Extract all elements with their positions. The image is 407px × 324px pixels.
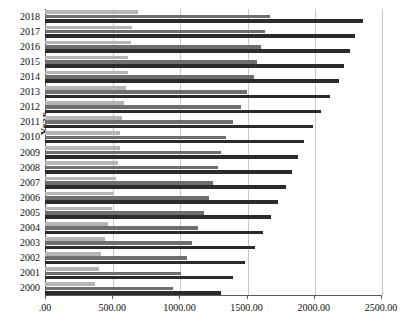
bar-group-2014	[45, 69, 381, 84]
bar-2008-series-1[interactable]	[45, 161, 118, 165]
bar-group-2006	[45, 190, 381, 205]
y-tick-2006: 2006	[20, 193, 40, 203]
bar-2012-series-1[interactable]	[45, 101, 124, 105]
bar-2013-series-3[interactable]	[45, 95, 330, 99]
bar-2009-series-2[interactable]	[45, 151, 221, 155]
bar-2015-series-3[interactable]	[45, 64, 344, 68]
bar-group-2016	[45, 39, 381, 54]
bar-2011-series-1[interactable]	[45, 116, 122, 120]
bar-2009-series-1[interactable]	[45, 146, 120, 150]
y-tick-2015: 2015	[20, 57, 40, 67]
bar-2005-series-3[interactable]	[45, 215, 271, 219]
bar-group-2007	[45, 175, 381, 190]
bar-2010-series-1[interactable]	[45, 131, 120, 135]
bar-2000-series-2[interactable]	[45, 287, 173, 291]
bars-layer	[45, 9, 381, 296]
bar-group-2011	[45, 115, 381, 130]
bar-2001-series-2[interactable]	[45, 272, 181, 276]
y-tick-2013: 2013	[20, 87, 40, 97]
bar-2012-series-3[interactable]	[45, 110, 321, 114]
bar-group-2001	[45, 266, 381, 281]
bar-2003-series-2[interactable]	[45, 241, 192, 245]
bar-2005-series-1[interactable]	[45, 207, 112, 211]
bar-2010-series-2[interactable]	[45, 136, 226, 140]
bar-2018-series-2[interactable]	[45, 15, 270, 19]
bar-2009-series-3[interactable]	[45, 155, 298, 159]
bar-2012-series-2[interactable]	[45, 105, 241, 109]
bar-group-2012	[45, 100, 381, 115]
bar-group-2015	[45, 54, 381, 69]
x-tick-mark-1000	[179, 295, 180, 299]
bar-2008-series-2[interactable]	[45, 166, 218, 170]
x-tick-mark-2500	[381, 295, 382, 299]
x-tick-mark-500	[112, 295, 113, 299]
y-tick-2012: 2012	[20, 102, 40, 112]
x-tick-label-0: .00	[39, 302, 52, 313]
bar-group-2005	[45, 205, 381, 220]
bar-2001-series-1[interactable]	[45, 267, 99, 271]
y-tick-2003: 2003	[20, 238, 40, 248]
y-tick-2005: 2005	[20, 208, 40, 218]
bar-2002-series-2[interactable]	[45, 256, 187, 260]
bar-2010-series-3[interactable]	[45, 140, 304, 144]
gridline-2500	[382, 9, 383, 295]
bar-2015-series-2[interactable]	[45, 60, 257, 64]
x-tick-label-2500: 2500.00	[365, 302, 398, 313]
bar-2008-series-3[interactable]	[45, 170, 292, 174]
bar-2015-series-1[interactable]	[45, 56, 128, 60]
x-tick-label-1500: 1500.00	[230, 302, 263, 313]
x-tick-label-2000: 2000.00	[298, 302, 331, 313]
bar-2007-series-1[interactable]	[45, 177, 116, 181]
bar-2016-series-2[interactable]	[45, 45, 261, 49]
bar-group-2010	[45, 130, 381, 145]
bar-2006-series-2[interactable]	[45, 196, 209, 200]
bar-2007-series-2[interactable]	[45, 181, 213, 185]
bar-2018-series-3[interactable]	[45, 19, 363, 23]
bar-2013-series-2[interactable]	[45, 90, 247, 94]
bar-2013-series-1[interactable]	[45, 86, 126, 90]
x-tick-mark-2000	[314, 295, 315, 299]
y-tick-2016: 2016	[20, 42, 40, 52]
bar-2001-series-3[interactable]	[45, 276, 233, 280]
bar-2017-series-3[interactable]	[45, 34, 355, 38]
bar-2003-series-3[interactable]	[45, 246, 255, 250]
bar-2016-series-3[interactable]	[45, 49, 350, 53]
bar-2007-series-3[interactable]	[45, 185, 286, 189]
x-tick-label-500: 500.00	[98, 302, 126, 313]
bar-2014-series-1[interactable]	[45, 71, 128, 75]
bar-2004-series-3[interactable]	[45, 231, 263, 235]
bar-group-2009	[45, 145, 381, 160]
bar-2014-series-2[interactable]	[45, 75, 254, 79]
bar-2018-series-1[interactable]	[45, 10, 138, 14]
bar-2017-series-1[interactable]	[45, 26, 132, 30]
bar-2005-series-2[interactable]	[45, 211, 204, 215]
bar-2002-series-3[interactable]	[45, 261, 245, 265]
bar-2011-series-3[interactable]	[45, 125, 313, 129]
bar-2000-series-3[interactable]	[45, 291, 221, 295]
bar-2016-series-1[interactable]	[45, 41, 131, 45]
bar-group-2013	[45, 85, 381, 100]
y-tick-2009: 2009	[20, 148, 40, 158]
bar-2011-series-2[interactable]	[45, 120, 233, 124]
bar-group-2018	[45, 9, 381, 24]
bar-group-2003	[45, 236, 381, 251]
bar-2004-series-1[interactable]	[45, 222, 108, 226]
y-tick-2014: 2014	[20, 72, 40, 82]
x-tick-mark-0	[45, 295, 46, 299]
bar-group-2002	[45, 251, 381, 266]
bar-2004-series-2[interactable]	[45, 226, 198, 230]
bar-2003-series-1[interactable]	[45, 237, 105, 241]
y-tick-2000: 2000	[20, 283, 40, 293]
x-tick-mark-1500	[247, 295, 248, 299]
bar-2002-series-1[interactable]	[45, 252, 101, 256]
bar-2006-series-3[interactable]	[45, 200, 278, 204]
y-axis-tick-labels: 2018201720162015201420132012201120102009…	[0, 9, 43, 296]
x-tick-label-1000: 1000.00	[163, 302, 196, 313]
bar-group-2017	[45, 24, 381, 39]
bar-group-2008	[45, 160, 381, 175]
bar-2006-series-1[interactable]	[45, 192, 114, 196]
bar-2000-series-1[interactable]	[45, 282, 95, 286]
bar-2017-series-2[interactable]	[45, 30, 265, 34]
bar-2014-series-3[interactable]	[45, 79, 339, 83]
y-tick-2002: 2002	[20, 253, 40, 263]
